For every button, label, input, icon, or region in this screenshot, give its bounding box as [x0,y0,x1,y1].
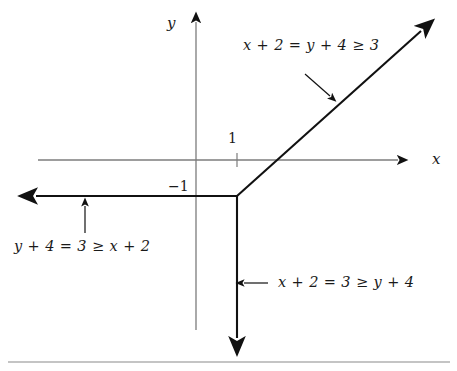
y-tick-label-minus-1: −1 [168,178,189,194]
upper-right-label-pointer [305,74,330,96]
x-tick-label-1: 1 [228,130,237,146]
down-ray-label: x + 2 = 3 ≥ y + 4 [278,274,414,290]
upper-right-ray-label: x + 2 = y + 4 ≥ 3 [243,37,379,53]
x-axis-label: x [432,150,440,168]
left-ray-label: y + 4 = 3 ≥ x + 2 [14,238,150,254]
diagram-svg [0,0,457,371]
upper-right-ray [237,31,421,196]
figure-canvas: x y 1 −1 x + 2 = y + 4 ≥ 3 y + 4 = 3 ≥ x… [0,0,457,371]
y-axis-label: y [167,14,175,32]
